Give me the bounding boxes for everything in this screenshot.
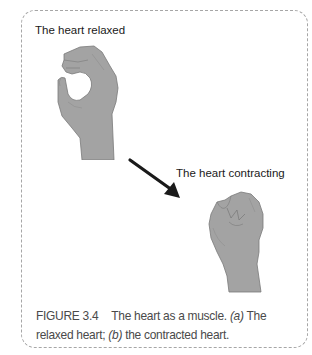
- figure-caption: FIGURE 3.4The heart as a muscle. (a) The…: [36, 306, 303, 344]
- caption-italic-a: (a): [230, 308, 244, 323]
- label-heart-contracting: The heart contracting: [176, 167, 285, 179]
- caption-italic-b: (b): [108, 327, 122, 342]
- open-hand-illustration: [52, 42, 124, 160]
- caption-text-3: the contracted heart.: [122, 327, 229, 342]
- figure-number: FIGURE 3.4: [36, 308, 98, 323]
- label-heart-relaxed: The heart relaxed: [35, 24, 125, 36]
- arrow-down-right-icon: [126, 156, 186, 202]
- caption-text-1: The heart as a muscle.: [111, 308, 230, 323]
- closed-fist-illustration: [203, 188, 269, 294]
